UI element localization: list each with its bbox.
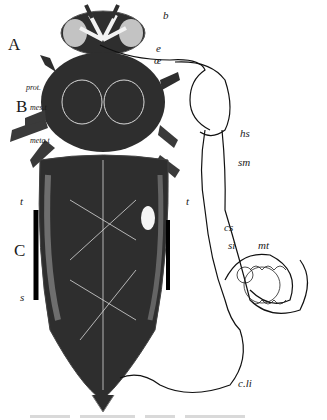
head bbox=[61, 5, 145, 55]
label-B: B bbox=[16, 98, 27, 115]
figure-caption-faint bbox=[30, 406, 297, 414]
label-mt: mt bbox=[258, 240, 269, 251]
label-C: C bbox=[14, 242, 25, 259]
label-A: A bbox=[8, 36, 20, 53]
label-metat: meta.t bbox=[30, 137, 50, 145]
insect-anatomy-figure bbox=[0, 0, 327, 420]
label-cs: cs bbox=[224, 222, 233, 233]
label-sm: sm bbox=[238, 157, 250, 168]
malpighian-tubules bbox=[237, 266, 286, 304]
label-t-left: t bbox=[20, 196, 23, 207]
label-cli: c.li bbox=[238, 378, 252, 389]
label-e: e bbox=[156, 43, 161, 54]
label-prot: prot. bbox=[26, 84, 41, 92]
label-b: b bbox=[163, 10, 169, 21]
label-si: si bbox=[228, 240, 235, 251]
label-t-right: t bbox=[186, 196, 189, 207]
label-s: s bbox=[20, 292, 24, 303]
abdomen bbox=[36, 155, 168, 412]
label-oe: œ bbox=[154, 55, 161, 66]
label-hs: hs bbox=[240, 128, 250, 139]
label-mest: mes.t bbox=[30, 104, 47, 112]
